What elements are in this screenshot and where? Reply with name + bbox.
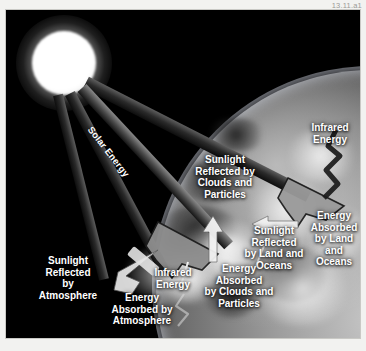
- label-energy-absorbed-by-clouds-and-particles: Energy Absorbed by Clouds and Particles: [190, 263, 288, 309]
- diagram-panel: Solar Energy: [6, 10, 360, 338]
- label-energy-absorbed-by-land-and-oceans: Energy Absorbed by Land and Oceans: [302, 210, 360, 268]
- label-energy-absorbed-by-atmosphere: Energy Absorbed by Atmosphere: [94, 292, 190, 327]
- label-sunlight-reflected-by-clouds: Sunlight Reflected by Clouds and Particl…: [182, 154, 268, 200]
- label-infrared-energy-top: Infrared Energy: [296, 122, 360, 145]
- figure-id-label: 13.11.a1: [332, 1, 362, 10]
- figure-container: 13.11.a1 Solar Energy: [0, 0, 366, 351]
